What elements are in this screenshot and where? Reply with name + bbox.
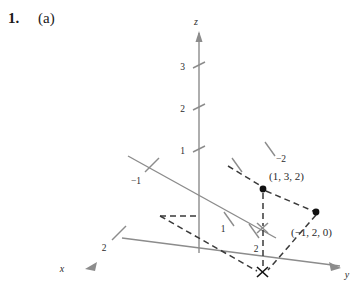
tick-label-z-3: 3 <box>180 62 185 72</box>
projection-cross-marker <box>257 267 268 277</box>
x-axis-label: x <box>59 263 65 274</box>
point-label-neg1-2-0: (−1, 2, 0) <box>291 226 332 239</box>
dash-point-to-point <box>266 191 313 211</box>
x-axis-arrowhead <box>85 262 97 271</box>
point-1-3-2-dot <box>260 186 267 193</box>
y-tick-neg2 <box>265 142 275 156</box>
figure-page: 1. (a) <box>0 0 361 288</box>
tick-label-y-2: 2 <box>254 244 259 254</box>
tick-label-x-negative-1: −1 <box>131 176 141 186</box>
x-axis-line <box>128 156 276 238</box>
tick-marks <box>112 62 275 240</box>
cross-markers <box>257 267 268 277</box>
y-tick-neg1 <box>232 158 242 172</box>
coordinate-system-figure: z x y 3 2 1 2 −1 1 2 −2 (1, 3, 2) (−1, 2… <box>0 0 361 288</box>
point-neg1-2-0-dot <box>313 209 320 216</box>
point-label-1-3-2: (1, 3, 2) <box>269 170 304 183</box>
z-axis-label: z <box>193 16 198 27</box>
dash-top-left-to-point <box>228 166 261 186</box>
tick-label-x-2: 2 <box>102 243 107 253</box>
y-axis-line <box>122 238 340 266</box>
tick-label-y-negative-2: −2 <box>276 154 286 164</box>
y-axis-label: y <box>344 269 350 280</box>
tick-label-z-1: 1 <box>180 146 185 156</box>
dash-base-left-side <box>160 216 257 271</box>
tick-label-y-1: 1 <box>221 224 226 234</box>
z-axis-arrowhead <box>196 31 203 42</box>
tick-label-z-2: 2 <box>180 104 185 114</box>
